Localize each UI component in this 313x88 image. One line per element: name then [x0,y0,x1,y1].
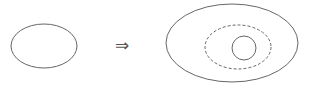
implies-arrow-icon: ⇒ [115,35,129,55]
outer-ellipse [166,4,298,82]
dashed-ellipse [205,25,271,69]
diagram-canvas [0,0,313,88]
inner-circle [232,36,256,60]
left-ellipse [11,24,77,68]
